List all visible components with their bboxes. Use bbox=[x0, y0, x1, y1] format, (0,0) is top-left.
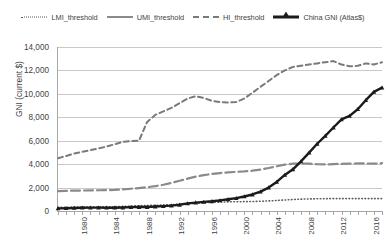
solid-line-key-icon bbox=[107, 13, 133, 21]
x-axis-tick-label: 2008 bbox=[307, 217, 316, 235]
x-axis-tick bbox=[58, 211, 59, 215]
x-axis-tick bbox=[277, 211, 278, 215]
x-axis-tick bbox=[382, 211, 383, 215]
x-axis-tick bbox=[163, 211, 164, 215]
x-axis-tick bbox=[374, 211, 375, 215]
x-axis-tick-label: 1996 bbox=[209, 217, 218, 235]
plot-area: 02,0004,0006,0008,00010,00012,00014,000 … bbox=[57, 47, 382, 212]
x-axis-tick bbox=[107, 211, 108, 215]
x-axis-tick bbox=[317, 211, 318, 215]
x-axis-tick bbox=[155, 211, 156, 215]
x-axis-tick bbox=[66, 211, 67, 215]
x-axis-tick bbox=[309, 211, 310, 215]
dotted-line-key-icon bbox=[21, 13, 47, 21]
x-axis-tick bbox=[366, 211, 367, 215]
x-axis-tick-label: 2016 bbox=[371, 217, 380, 235]
x-axis-tick bbox=[180, 211, 181, 215]
x-axis-tick-label: 1984 bbox=[112, 217, 121, 235]
x-axis-tick-label: 2004 bbox=[274, 217, 283, 235]
legend-item-hi-threshold[interactable]: HI_threshold bbox=[193, 13, 264, 22]
x-axis-tick bbox=[115, 211, 116, 215]
thick-line-marker-key-icon bbox=[273, 13, 299, 21]
x-axis-tick bbox=[236, 211, 237, 215]
series-line-hi-threshold bbox=[58, 61, 382, 158]
x-axis-tick bbox=[244, 211, 245, 215]
chart-container: LMI_threshold UMI_threshold HI_threshold… bbox=[0, 0, 386, 247]
x-axis-tick bbox=[220, 211, 221, 215]
x-axis-tick bbox=[74, 211, 75, 215]
x-axis-tick-label: 1992 bbox=[177, 217, 186, 235]
x-axis-tick bbox=[188, 211, 189, 215]
legend-item-china-gni[interactable]: China GNI (Atlas$) bbox=[273, 13, 364, 22]
legend-label-china-gni: China GNI (Atlas$) bbox=[303, 13, 364, 22]
series-line-umi-threshold bbox=[58, 163, 382, 191]
x-axis-tick bbox=[358, 211, 359, 215]
dashed-line-key-icon bbox=[193, 13, 219, 21]
y-axis-tick-label: 6,000 bbox=[0, 136, 49, 145]
x-axis-tick bbox=[204, 211, 205, 215]
y-axis-tick-label: 12,000 bbox=[0, 66, 49, 75]
y-axis-tick-label: 2,000 bbox=[0, 183, 49, 192]
x-axis-tick bbox=[333, 211, 334, 215]
x-axis-tick bbox=[123, 211, 124, 215]
x-axis-tick bbox=[212, 211, 213, 215]
x-axis-tick bbox=[261, 211, 262, 215]
x-axis-tick bbox=[90, 211, 91, 215]
x-axis-tick bbox=[147, 211, 148, 215]
x-axis-tick bbox=[301, 211, 302, 215]
y-axis-tick-label: 0 bbox=[0, 207, 49, 216]
legend-label-hi-threshold: HI_threshold bbox=[223, 13, 264, 22]
x-axis-tick bbox=[228, 211, 229, 215]
chart-legend: LMI_threshold UMI_threshold HI_threshold… bbox=[0, 9, 386, 25]
legend-item-lmi-threshold[interactable]: LMI_threshold bbox=[21, 13, 97, 22]
series-layer bbox=[58, 47, 382, 211]
x-axis-tick bbox=[99, 211, 100, 215]
x-axis-tick bbox=[293, 211, 294, 215]
x-axis-tick bbox=[269, 211, 270, 215]
x-axis-tick bbox=[350, 211, 351, 215]
legend-item-umi-threshold[interactable]: UMI_threshold bbox=[107, 13, 184, 22]
legend-label-umi-threshold: UMI_threshold bbox=[137, 13, 184, 22]
x-axis-tick-label: 2000 bbox=[242, 217, 251, 235]
y-axis-tick-label: 10,000 bbox=[0, 89, 49, 98]
x-axis-tick bbox=[196, 211, 197, 215]
x-axis-tick-label: 1988 bbox=[145, 217, 154, 235]
y-axis-tick-label: 8,000 bbox=[0, 113, 49, 122]
y-axis-tick-label: 4,000 bbox=[0, 160, 49, 169]
x-axis-tick bbox=[285, 211, 286, 215]
x-axis-tick bbox=[131, 211, 132, 215]
x-axis-tick bbox=[252, 211, 253, 215]
x-axis-tick bbox=[171, 211, 172, 215]
x-axis-tick bbox=[82, 211, 83, 215]
x-axis-tick bbox=[325, 211, 326, 215]
x-axis-tick-label: 1980 bbox=[80, 217, 89, 235]
x-axis-tick bbox=[342, 211, 343, 215]
legend-label-lmi-threshold: LMI_threshold bbox=[51, 13, 97, 22]
y-axis-tick-label: 14,000 bbox=[0, 43, 49, 52]
x-axis-tick-label: 2012 bbox=[339, 217, 348, 235]
x-axis-tick bbox=[139, 211, 140, 215]
